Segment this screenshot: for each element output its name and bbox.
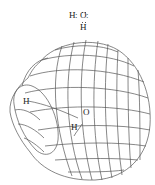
bond-line-h-o bbox=[28, 101, 78, 118]
cloud-label-oxygen: O bbox=[83, 108, 90, 117]
cloud-label-hydrogen-bottom: H bbox=[71, 123, 78, 132]
hydrogen-lobe-outline bbox=[14, 85, 58, 154]
electron-cloud-wireframe bbox=[0, 0, 155, 185]
cloud-label-hydrogen-left: H bbox=[23, 97, 30, 106]
